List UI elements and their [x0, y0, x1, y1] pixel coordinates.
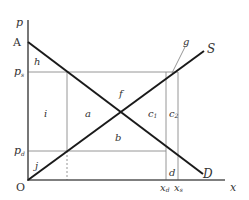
supply-curve-label: S: [207, 42, 215, 56]
area-a-label: a: [85, 108, 91, 119]
supply-demand-diagram: p x x x O A ps pd xd xs S D h i a f b c1…: [0, 0, 249, 200]
axes: [27, 20, 225, 181]
point-a-label: A: [12, 36, 22, 49]
area-j-label: j: [33, 160, 38, 171]
g-pointer-label: g: [183, 36, 189, 47]
pd-label: pd: [14, 144, 25, 157]
area-c1-label: c1: [148, 108, 157, 119]
area-b-label: b: [115, 132, 121, 143]
origin-label: O: [16, 181, 25, 194]
y-axis-label: p: [16, 16, 23, 29]
demand-curve: [28, 42, 203, 174]
xd-label: xd: [160, 182, 170, 193]
xs-label: xs: [174, 182, 183, 193]
area-d-label: d: [169, 167, 175, 178]
demand-curve-label: D: [202, 167, 213, 181]
area-h-label: h: [34, 56, 40, 67]
x-axis-end-label: x: [230, 181, 237, 194]
guide-lines: [28, 47, 185, 180]
area-i-label: i: [44, 108, 47, 119]
area-f-label: f: [118, 88, 125, 99]
area-c2-label: c2: [169, 108, 179, 119]
ps-label: ps: [14, 65, 24, 78]
